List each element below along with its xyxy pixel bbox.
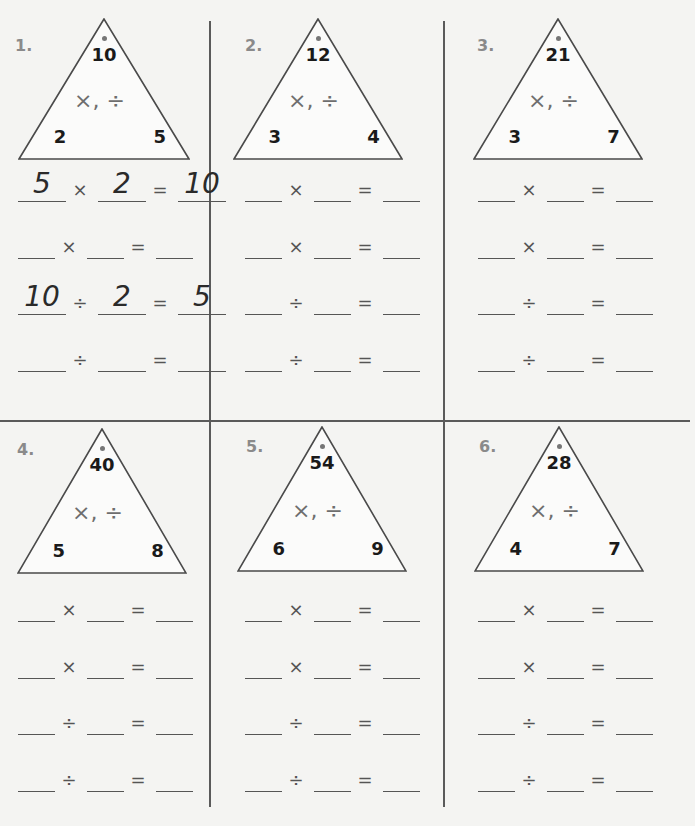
answer-blank-b[interactable] <box>547 224 584 259</box>
answer-blank-b[interactable] <box>98 337 146 372</box>
answer-blank-a[interactable] <box>245 700 282 735</box>
answer-blank-a[interactable] <box>18 587 55 622</box>
answer-blank-c[interactable] <box>156 587 193 622</box>
answer-blank-c[interactable] <box>383 700 420 735</box>
answer-blank-a[interactable] <box>478 757 515 792</box>
answer-blank-a[interactable] <box>245 587 282 622</box>
answer-blank-a[interactable] <box>245 280 282 315</box>
triangle-left-number: 4 <box>498 538 534 559</box>
answer-blank-b[interactable] <box>547 337 584 372</box>
equals-sign: = <box>128 236 148 257</box>
answer-blank-c[interactable] <box>616 280 653 315</box>
answer-blank-b[interactable] <box>314 280 351 315</box>
equation-row: ÷= <box>478 756 668 792</box>
triangle-left-number: 3 <box>497 126 533 147</box>
answer-blank-c[interactable]: 5 <box>178 280 226 315</box>
triangle-right-number: 7 <box>596 538 632 559</box>
answer-blank-a[interactable]: 10 <box>18 280 66 315</box>
answer-blank-a[interactable] <box>18 700 55 735</box>
answer-blank-c[interactable]: 10 <box>178 167 226 202</box>
triangle-operations: ×, ÷ <box>528 88 579 113</box>
answer-blank-b[interactable] <box>314 224 351 259</box>
operator-sign: × <box>286 179 306 200</box>
equation-row: ×= <box>18 223 208 259</box>
answer-blank-b[interactable] <box>87 644 124 679</box>
answer-blank-b[interactable] <box>87 587 124 622</box>
operator-sign: ÷ <box>286 349 306 370</box>
answer-blank-a[interactable] <box>478 587 515 622</box>
answer-blank-b[interactable]: 2 <box>98 280 146 315</box>
column-divider-left <box>209 21 211 807</box>
answer-blank-c[interactable] <box>178 337 226 372</box>
answer-blank-b[interactable] <box>87 700 124 735</box>
answer-blank-a[interactable] <box>18 644 55 679</box>
answer-blank-c[interactable] <box>616 224 653 259</box>
triangle-operations: ×, ÷ <box>292 498 343 523</box>
answer-blank-a[interactable] <box>478 280 515 315</box>
answer-blank-c[interactable] <box>616 167 653 202</box>
equals-sign: = <box>588 656 608 677</box>
answer-blank-c[interactable] <box>383 224 420 259</box>
answer-blank-c[interactable] <box>383 167 420 202</box>
equation-row: ÷= <box>18 336 208 372</box>
row-divider <box>0 420 690 422</box>
answer-blank-b[interactable] <box>314 644 351 679</box>
answer-blank-c[interactable] <box>616 644 653 679</box>
operator-sign: × <box>519 179 539 200</box>
dot-icon <box>556 36 561 41</box>
answer-blank-a[interactable] <box>245 757 282 792</box>
answer-blank-a[interactable] <box>245 337 282 372</box>
fact-family-triangle: 12×, ÷34 <box>233 18 403 160</box>
answer-blank-b[interactable] <box>547 757 584 792</box>
answer-blank-a[interactable] <box>478 700 515 735</box>
answer-blank-b[interactable] <box>547 700 584 735</box>
answer-blank-c[interactable] <box>383 757 420 792</box>
answer-blank-b[interactable] <box>87 224 124 259</box>
equals-sign: = <box>588 236 608 257</box>
answer-blank-b[interactable] <box>547 587 584 622</box>
answer-blank-b[interactable] <box>547 280 584 315</box>
answer-blank-b[interactable] <box>314 757 351 792</box>
answer-blank-a[interactable] <box>18 337 66 372</box>
operator-sign: × <box>519 599 539 620</box>
triangle-operations: ×, ÷ <box>72 500 123 525</box>
answer-blank-c[interactable] <box>383 587 420 622</box>
answer-blank-b[interactable] <box>314 167 351 202</box>
answer-blank-b[interactable] <box>314 587 351 622</box>
answer-blank-c[interactable] <box>383 280 420 315</box>
answer-blank-c[interactable] <box>383 644 420 679</box>
answer-blank-a[interactable]: 5 <box>18 167 66 202</box>
answer-blank-b[interactable]: 2 <box>98 167 146 202</box>
answer-blank-a[interactable] <box>18 757 55 792</box>
answer-blank-a[interactable] <box>478 167 515 202</box>
answer-blank-c[interactable] <box>156 700 193 735</box>
equation-row: ×= <box>18 586 208 622</box>
answer-blank-b[interactable] <box>87 757 124 792</box>
fact-family-triangle: 21×, ÷37 <box>473 18 643 160</box>
answer-blank-a[interactable] <box>478 224 515 259</box>
answer-blank-c[interactable] <box>616 587 653 622</box>
operator-sign: × <box>59 236 79 257</box>
equation-row: 5×2=10 <box>18 166 208 202</box>
triangle-operations: ×, ÷ <box>74 88 125 113</box>
answer-blank-a[interactable] <box>478 337 515 372</box>
answer-blank-a[interactable] <box>245 644 282 679</box>
answer-blank-a[interactable] <box>245 167 282 202</box>
answer-blank-c[interactable] <box>156 757 193 792</box>
answer-blank-b[interactable] <box>314 337 351 372</box>
answer-blank-a[interactable] <box>245 224 282 259</box>
answer-blank-b[interactable] <box>314 700 351 735</box>
answer-blank-b[interactable] <box>547 644 584 679</box>
answer-blank-b[interactable] <box>547 167 584 202</box>
answer-blank-c[interactable] <box>156 644 193 679</box>
answer-blank-c[interactable] <box>156 224 193 259</box>
equation-row: ×= <box>18 643 208 679</box>
operator-sign: × <box>286 599 306 620</box>
answer-blank-c[interactable] <box>616 757 653 792</box>
answer-blank-a[interactable] <box>478 644 515 679</box>
answer-blank-c[interactable] <box>383 337 420 372</box>
equals-sign: = <box>355 292 375 313</box>
answer-blank-c[interactable] <box>616 337 653 372</box>
answer-blank-c[interactable] <box>616 700 653 735</box>
answer-blank-a[interactable] <box>18 224 55 259</box>
